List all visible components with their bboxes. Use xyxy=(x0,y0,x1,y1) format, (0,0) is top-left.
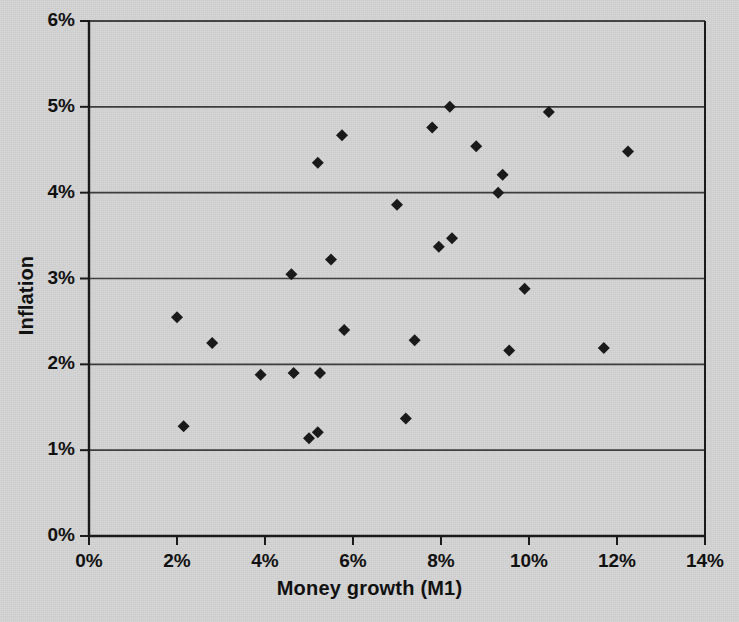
data-point xyxy=(338,324,350,336)
data-point xyxy=(519,283,531,295)
x-axis-title: Money growth (M1) xyxy=(0,577,739,600)
data-point xyxy=(497,169,509,181)
y-tick-label-6: 6% xyxy=(48,9,75,31)
y-tick-label-0: 0% xyxy=(48,524,75,546)
data-point xyxy=(178,420,190,432)
data-point xyxy=(400,412,412,424)
x-tick-label-6: 6% xyxy=(313,550,393,572)
data-point xyxy=(312,157,324,169)
data-point xyxy=(312,426,324,438)
scatter-chart: Money growth (M1) Inflation 0%1%2%3%4%5%… xyxy=(0,0,739,622)
x-tick-label-2: 2% xyxy=(137,550,217,572)
x-tick-label-4: 4% xyxy=(225,550,305,572)
data-point xyxy=(444,101,456,113)
data-point xyxy=(622,145,634,157)
x-tick-label-0: 0% xyxy=(49,550,129,572)
data-point xyxy=(470,140,482,152)
data-point xyxy=(325,254,337,266)
plot-area xyxy=(0,0,739,622)
data-point xyxy=(492,187,504,199)
data-point xyxy=(391,199,403,211)
x-tick-label-14: 14% xyxy=(665,550,739,572)
y-tick-label-3: 3% xyxy=(48,267,75,289)
data-point xyxy=(446,232,458,244)
data-point xyxy=(503,345,515,357)
data-point xyxy=(336,129,348,141)
data-point xyxy=(543,106,555,118)
y-tick-label-4: 4% xyxy=(48,181,75,203)
y-tick-label-5: 5% xyxy=(48,95,75,117)
data-point xyxy=(433,241,445,253)
data-point xyxy=(314,367,326,379)
y-tick-label-1: 1% xyxy=(48,438,75,460)
y-tick-label-2: 2% xyxy=(48,352,75,374)
x-tick-label-8: 8% xyxy=(401,550,481,572)
x-tick-label-10: 10% xyxy=(489,550,569,572)
data-point xyxy=(288,367,300,379)
data-point xyxy=(409,334,421,346)
data-point xyxy=(255,369,267,381)
data-point xyxy=(598,342,610,354)
data-point xyxy=(426,121,438,133)
data-point xyxy=(206,337,218,349)
data-point xyxy=(171,311,183,323)
x-tick-label-12: 12% xyxy=(577,550,657,572)
y-axis-title: Inflation xyxy=(15,216,38,376)
data-point xyxy=(303,432,315,444)
